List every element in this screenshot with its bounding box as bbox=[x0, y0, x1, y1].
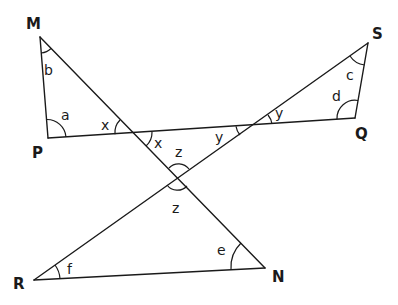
segment-sr bbox=[34, 43, 368, 280]
angle-arc-c bbox=[350, 56, 365, 65]
angle-label-x2: x bbox=[154, 135, 162, 151]
angle-label-y2: y bbox=[275, 105, 283, 121]
angle-label-y1: y bbox=[215, 129, 223, 145]
vertex-label-q: Q bbox=[355, 125, 368, 143]
angle-arc-z1 bbox=[169, 164, 189, 169]
angle-label-a: a bbox=[61, 107, 70, 123]
vertex-label-p: P bbox=[32, 144, 43, 162]
angle-label-b: b bbox=[44, 62, 53, 78]
angle-arc-f bbox=[55, 265, 60, 279]
segment-pq bbox=[48, 118, 355, 138]
angle-label-x1: x bbox=[101, 117, 109, 133]
vertex-label-m: M bbox=[26, 15, 41, 33]
geometry-diagram: M P Q S R N b a x x z z y y c d e f bbox=[0, 0, 398, 305]
angle-arc-b bbox=[41, 49, 51, 54]
angle-label-c: c bbox=[346, 67, 354, 83]
vertex-label-n: N bbox=[272, 268, 285, 286]
angle-label-z2: z bbox=[172, 200, 179, 216]
angle-arc-e bbox=[231, 243, 241, 270]
angle-arc-y1 bbox=[236, 126, 240, 135]
angle-label-d: d bbox=[332, 88, 341, 104]
angle-arc-x2 bbox=[146, 132, 152, 146]
vertex-label-s: S bbox=[372, 25, 383, 43]
segment-qs bbox=[355, 43, 368, 118]
angle-label-f: f bbox=[67, 261, 73, 277]
angle-label-e: e bbox=[217, 242, 226, 258]
angle-arc-x1 bbox=[115, 120, 120, 134]
vertex-label-r: R bbox=[13, 275, 25, 293]
segment-mn bbox=[40, 37, 265, 268]
angle-label-z1: z bbox=[175, 144, 182, 160]
angle-arc-y2 bbox=[268, 115, 272, 124]
